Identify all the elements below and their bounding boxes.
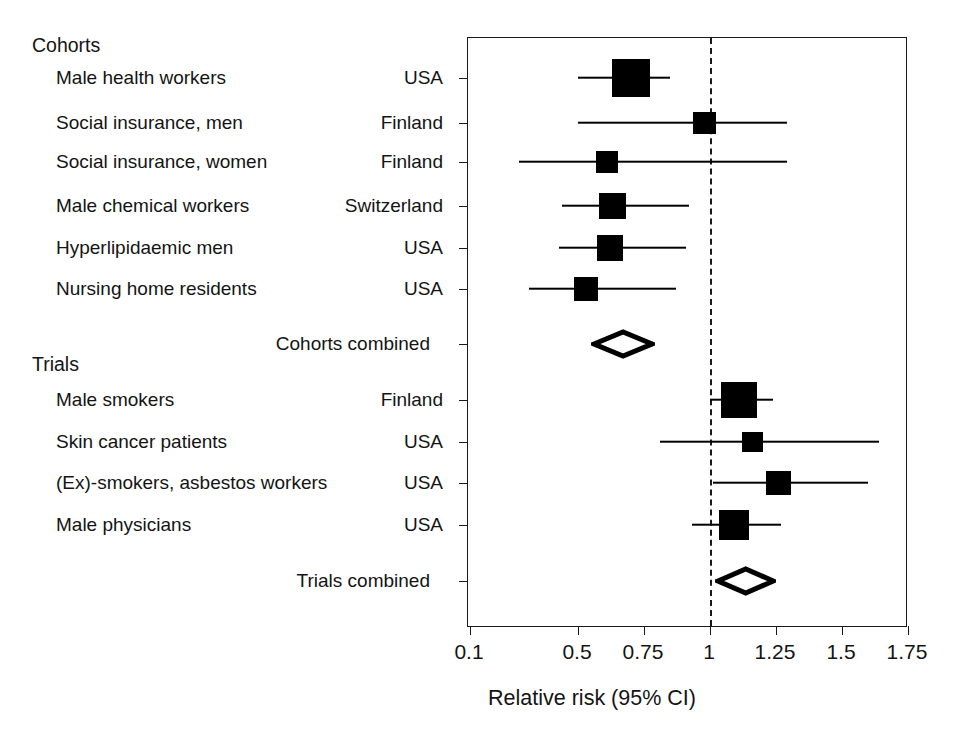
x-tick-0.1 (470, 626, 471, 635)
row-label-nursing-home-residents: Nursing home residents (56, 279, 257, 298)
x-axis-title: Relative risk (95% CI) (0, 686, 954, 711)
country-skin-cancer-patients: USA (404, 432, 443, 451)
row-label-hyperlipidaemic-men: Hyperlipidaemic men (56, 238, 233, 257)
x-axis-title-text: Relative risk (95% CI) (488, 686, 696, 710)
x-tick-0.5 (578, 626, 579, 635)
row-label-trials-combined: Trials combined (20, 571, 430, 590)
y-tick-9 (459, 483, 468, 484)
country-male-physicians: USA (404, 515, 443, 534)
x-tick-label-0.5: 0.5 (562, 641, 591, 662)
row-label-male-smokers: Male smokers (56, 390, 174, 409)
ci-line-social-insurance-men (578, 122, 787, 124)
country-social-insurance-men: Finland (381, 113, 443, 132)
row-label-cohorts-combined: Cohorts combined (20, 334, 430, 353)
row-label-ex-smokers-asbestos: (Ex)-smokers, asbestos workers (56, 473, 327, 492)
country-nursing-home-residents: USA (404, 279, 443, 298)
x-tick-1 (710, 626, 711, 635)
row-label-male-physicians: Male physicians (56, 515, 191, 534)
point-estimate-box-male-health-workers (612, 59, 650, 97)
forest-plot-figure: Cohorts Trials Male health workers Socia… (0, 0, 954, 730)
y-tick-8 (459, 442, 468, 443)
x-tick-1.25 (776, 626, 777, 635)
y-tick-5 (459, 289, 468, 290)
ci-line-social-insurance-women (519, 161, 787, 163)
section-heading-trials: Trials (32, 355, 79, 374)
y-tick-6 (459, 344, 468, 345)
x-tick-label-1.75: 1.75 (887, 641, 928, 662)
y-tick-3 (459, 206, 468, 207)
ci-line-skin-cancer-patients (660, 441, 879, 443)
country-ex-smokers-asbestos: USA (404, 473, 443, 492)
point-estimate-box-nursing-home-residents (574, 277, 598, 301)
row-label-social-insurance-women: Social insurance, women (56, 152, 267, 171)
row-label-social-insurance-men: Social insurance, men (56, 113, 243, 132)
y-tick-7 (459, 400, 468, 401)
country-male-smokers: Finland (381, 390, 443, 409)
y-tick-10 (459, 525, 468, 526)
x-tick-label-1: 1 (703, 641, 715, 662)
x-tick-label-0.1: 0.1 (454, 641, 483, 662)
y-tick-11 (459, 581, 468, 582)
point-estimate-box-social-insurance-men (693, 112, 716, 135)
row-label-male-chemical-workers: Male chemical workers (56, 196, 249, 215)
point-estimate-box-male-smokers (721, 382, 758, 419)
summary-diamond-cohorts-combined (591, 329, 655, 359)
point-estimate-box-male-physicians (719, 510, 749, 540)
x-tick-0.75 (644, 626, 645, 635)
y-tick-0 (459, 78, 468, 79)
row-label-male-health-workers: Male health workers (56, 68, 226, 87)
country-social-insurance-women: Finland (381, 152, 443, 171)
y-tick-4 (459, 248, 468, 249)
ci-line-hyperlipidaemic-men (559, 247, 686, 249)
row-label-skin-cancer-patients: Skin cancer patients (56, 432, 227, 451)
point-estimate-box-male-chemical-workers (599, 193, 626, 220)
x-tick-1.5 (842, 626, 843, 635)
country-male-health-workers: USA (404, 68, 443, 87)
summary-diamond-trials-combined (715, 566, 776, 596)
point-estimate-box-hyperlipidaemic-men (597, 235, 623, 261)
x-tick-label-0.75: 0.75 (623, 641, 664, 662)
y-tick-1 (459, 123, 468, 124)
country-hyperlipidaemic-men: USA (404, 238, 443, 257)
x-tick-1.75 (908, 626, 909, 635)
x-tick-label-1.25: 1.25 (755, 641, 796, 662)
section-heading-cohorts: Cohorts (32, 36, 100, 55)
plot-area (467, 37, 907, 627)
x-tick-label-1.5: 1.5 (826, 641, 855, 662)
ci-line-nursing-home-residents (529, 288, 675, 290)
y-tick-2 (459, 162, 468, 163)
country-male-chemical-workers: Switzerland (345, 196, 443, 215)
point-estimate-box-social-insurance-women (596, 151, 618, 173)
point-estimate-box-skin-cancer-patients (742, 432, 763, 453)
point-estimate-box-ex-smokers-asbestos-workers (766, 471, 790, 495)
